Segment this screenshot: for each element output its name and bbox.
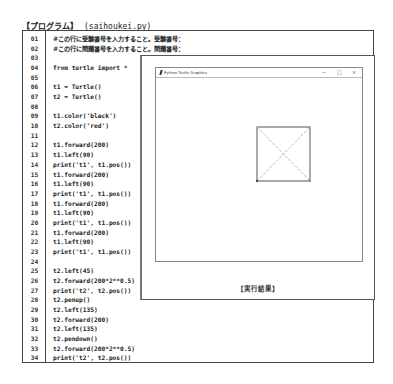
code-text: print('t1', t1.pos()) <box>53 247 131 257</box>
result-caption: 【実行結果】 <box>140 283 375 293</box>
line-number: 12 <box>23 140 46 150</box>
line-number: 03 <box>23 53 46 63</box>
code-text: from turtle import * <box>53 63 128 73</box>
code-text: t1.left(90) <box>53 208 94 218</box>
code-text: t1.left(90) <box>53 179 94 189</box>
code-text: t1.forward(200) <box>53 140 109 150</box>
window-titlebar: Python Turtle Graphics − □ × <box>156 68 362 78</box>
turtle-canvas <box>156 78 362 261</box>
line-number: 30 <box>23 315 46 325</box>
code-text: t1.color('black') <box>53 111 116 121</box>
line-number: 29 <box>23 305 46 315</box>
code-text: print('t2', t2.pos()) <box>53 286 131 296</box>
line-number: 06 <box>23 82 46 92</box>
line-number: 07 <box>23 92 46 102</box>
code-line: 01#この行に受験番号を入力すること。受験番号： <box>23 34 373 44</box>
line-number: 27 <box>23 286 46 296</box>
code-text: t1.left(90) <box>53 237 94 247</box>
line-number: 14 <box>23 160 46 170</box>
window-title: Python Turtle Graphics <box>164 69 207 76</box>
code-text: t2.forward(200*2**0.5) <box>53 344 135 354</box>
code-text: t1.forward(200) <box>53 170 109 180</box>
line-number: 10 <box>23 121 46 131</box>
line-number: 02 <box>23 44 46 54</box>
line-number: 33 <box>23 344 46 354</box>
turtle-graphics-window: Python Turtle Graphics − □ × <box>155 67 363 262</box>
line-number: 09 <box>23 111 46 121</box>
code-text: t2 = Turtle() <box>53 92 101 102</box>
code-text: #この行に問題番号を入力すること。問題番号： <box>53 44 184 54</box>
code-text: t2.penup() <box>53 295 90 305</box>
code-text: t1.forward(200) <box>53 199 109 209</box>
drawing-svg <box>156 78 362 261</box>
line-number: 21 <box>23 228 46 238</box>
code-text: t2.left(135) <box>53 305 98 315</box>
line-number: 04 <box>23 63 46 73</box>
code-line: 29t2.left(135) <box>23 305 373 315</box>
line-number: 20 <box>23 218 46 228</box>
line-number: 22 <box>23 237 46 247</box>
line-number: 05 <box>23 73 46 83</box>
line-number: 28 <box>23 295 46 305</box>
line-number: 32 <box>23 334 46 344</box>
line-number: 18 <box>23 199 46 209</box>
code-text: t2.pendown() <box>53 334 98 344</box>
code-text: t2.left(45) <box>53 266 94 276</box>
line-number: 11 <box>23 131 46 141</box>
code-line: 32t2.pendown() <box>23 334 373 344</box>
maximize-button[interactable]: □ <box>337 69 342 76</box>
code-line: 33t2.forward(200*2**0.5) <box>23 344 373 354</box>
code-text: print('t1', t1.pos()) <box>53 189 131 199</box>
code-text: t1.left(90) <box>53 150 94 160</box>
line-number: 01 <box>23 34 46 44</box>
line-number: 16 <box>23 179 46 189</box>
code-text: #この行に受験番号を入力すること。受験番号： <box>53 34 184 44</box>
code-line: 34print('t2', t2.pos()) <box>23 353 373 363</box>
minimize-button[interactable]: − <box>322 69 326 76</box>
turtle-t1-marker <box>256 180 258 182</box>
code-text: t1 = Turtle() <box>53 82 101 92</box>
line-number: 26 <box>23 276 46 286</box>
line-number: 23 <box>23 247 46 257</box>
line-number: 17 <box>23 189 46 199</box>
code-text: print('t1', t1.pos()) <box>53 218 131 228</box>
code-text: t1.forward(200) <box>53 228 109 238</box>
code-text: t2.forward(200*2**0.5) <box>53 276 135 286</box>
line-number: 15 <box>23 170 46 180</box>
code-text: t2.forward(200) <box>53 315 109 325</box>
code-line: 30t2.forward(200) <box>23 315 373 325</box>
code-text: t2.left(135) <box>53 324 98 334</box>
line-number: 24 <box>23 257 46 267</box>
close-button[interactable]: × <box>352 69 356 76</box>
code-text: t2.color('red') <box>53 121 109 131</box>
python-feather-icon <box>159 70 162 75</box>
code-text: print('t2', t2.pos()) <box>53 353 131 363</box>
line-number: 25 <box>23 266 46 276</box>
code-line: 31t2.left(135) <box>23 324 373 334</box>
line-number: 19 <box>23 208 46 218</box>
line-number: 08 <box>23 102 46 112</box>
line-number: 34 <box>23 353 46 363</box>
line-number: 13 <box>23 150 46 160</box>
turtle-t2-marker <box>309 180 311 182</box>
line-number: 31 <box>23 324 46 334</box>
code-text: print('t1', t1.pos()) <box>53 160 131 170</box>
code-line: 02#この行に問題番号を入力すること。問題番号： <box>23 44 373 54</box>
